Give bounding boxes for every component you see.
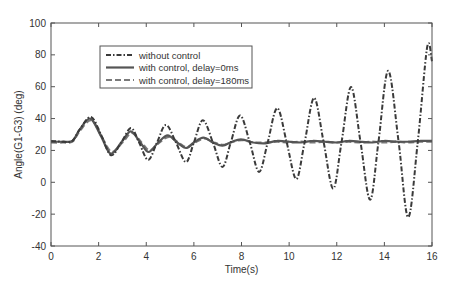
legend: without controlwith control, delay=0mswi…: [100, 46, 252, 88]
y-axis-label: Angle(G1-G3) (deg): [13, 90, 24, 178]
x-tick-label: 2: [96, 251, 102, 262]
x-tick-label: 8: [239, 251, 245, 262]
y-tick-label: -40: [32, 241, 47, 252]
x-tick-label: 6: [191, 251, 197, 262]
x-tick-label: 4: [143, 251, 149, 262]
x-axis-label: Time(s): [225, 264, 259, 275]
legend-entry-label: with control, delay=180ms: [138, 75, 249, 86]
series-line: [51, 120, 432, 152]
y-tick-label: 100: [29, 18, 46, 29]
y-tick-label: -20: [32, 209, 47, 220]
x-tick-label: 16: [426, 251, 438, 262]
x-tick-label: 12: [331, 251, 343, 262]
line-chart: 0246810121416 -40-20020406080100 Time(s)…: [0, 0, 455, 286]
x-tick-label: 10: [284, 251, 296, 262]
y-tick-label: 20: [35, 145, 47, 156]
x-tick-label: 14: [379, 251, 391, 262]
legend-entry-label: with control, delay=0ms: [138, 62, 239, 73]
y-tick-label: 60: [35, 81, 47, 92]
legend-entry-label: without control: [138, 50, 200, 61]
y-tick-label: 0: [40, 177, 46, 188]
x-tick-label: 0: [48, 251, 54, 262]
y-tick-label: 40: [35, 113, 47, 124]
y-tick-label: 80: [35, 49, 47, 60]
